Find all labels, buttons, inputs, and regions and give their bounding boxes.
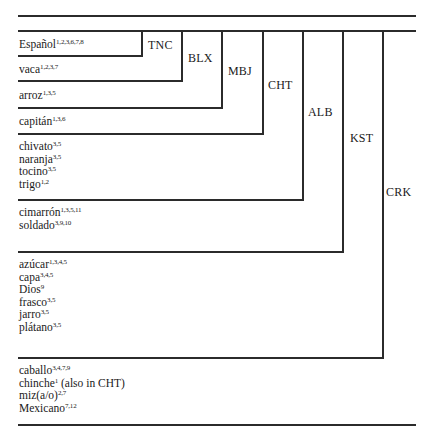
column-border-tnc bbox=[141, 30, 143, 57]
word-group-8: caballo3,4,7,9chinche1 (also in CHT)miz(… bbox=[19, 364, 125, 414]
language-label-kst: KST bbox=[350, 132, 373, 145]
source-references: 1,3,5 bbox=[43, 89, 56, 97]
row-separator-crk bbox=[18, 357, 384, 359]
source-references: 3,4,7,9 bbox=[52, 364, 70, 372]
source-references: 3,4,5 bbox=[40, 271, 53, 279]
loanword: trigo bbox=[19, 178, 41, 190]
loanword-entry: chinche1 (also in CHT) bbox=[19, 377, 125, 390]
loanword-entry: Mexicano7,12 bbox=[19, 402, 125, 415]
source-references: 3,5 bbox=[53, 321, 61, 329]
loanword-entry: chivato3,5 bbox=[19, 140, 61, 153]
source-references: 1,3,6 bbox=[52, 115, 65, 123]
row-separator-kst bbox=[18, 251, 344, 253]
source-references: 3,5 bbox=[47, 296, 55, 304]
word-group-1: Español1,2,3,6,7,8 bbox=[19, 38, 84, 51]
top-rule bbox=[18, 15, 416, 17]
language-label-crk: CRK bbox=[386, 186, 411, 199]
word-group-2: vaca1,2,3,7 bbox=[19, 63, 58, 76]
loanword-entry: vaca1,2,3,7 bbox=[19, 63, 58, 76]
loanword: Dios bbox=[19, 283, 41, 295]
source-references: 3,5 bbox=[48, 165, 56, 173]
loanword: capa bbox=[19, 271, 40, 283]
source-references: 1,3,4,5 bbox=[49, 258, 67, 266]
language-label-alb: ALB bbox=[308, 106, 333, 119]
source-references: 3,5 bbox=[41, 308, 49, 316]
entry-note: (also in CHT) bbox=[58, 377, 125, 389]
source-references: 2,7 bbox=[58, 389, 66, 397]
row-separator-mbj bbox=[18, 107, 223, 109]
loanword: Mexicano bbox=[19, 402, 65, 414]
loanword: capitán bbox=[19, 115, 52, 127]
loanword-entry: arroz1,3,5 bbox=[19, 89, 56, 102]
language-label-cht: CHT bbox=[268, 79, 293, 92]
loanword: miz(a/o) bbox=[19, 389, 58, 401]
column-border-mbj bbox=[221, 30, 223, 109]
loanword: naranja bbox=[19, 153, 53, 165]
word-group-6: cimarrón1,3,5,11soldado3,9,10 bbox=[19, 206, 81, 231]
source-references: 7,12 bbox=[65, 402, 76, 410]
loanword-entry: soldado3,9,10 bbox=[19, 219, 81, 232]
loanword: cimarrón bbox=[19, 206, 61, 218]
word-group-5: chivato3,5naranja3,5tocino3,5trigo1,2 bbox=[19, 140, 61, 190]
loanword: jarro bbox=[19, 308, 41, 320]
source-references: 1,2,3,6,7,8 bbox=[56, 38, 84, 46]
word-group-3: arroz1,3,5 bbox=[19, 89, 56, 102]
row-separator-cht bbox=[18, 133, 264, 135]
loanword-entry: capitán1,3,6 bbox=[19, 115, 65, 128]
loanword-entry: naranja3,5 bbox=[19, 153, 61, 166]
loanword-entry: miz(a/o)2,7 bbox=[19, 389, 125, 402]
column-border-blx bbox=[181, 30, 183, 82]
language-label-blx: BLX bbox=[188, 52, 213, 65]
word-group-7: azúcar1,3,4,5capa3,4,5Dios9frasco3,5jarr… bbox=[19, 258, 67, 333]
loanword-entry: tocino3,5 bbox=[19, 165, 61, 178]
loanword-entry: cimarrón1,3,5,11 bbox=[19, 206, 81, 219]
source-references: 1,2 bbox=[41, 178, 49, 186]
source-references: 3,9,10 bbox=[55, 219, 71, 227]
language-label-tnc: TNC bbox=[148, 39, 173, 52]
column-border-cht bbox=[262, 30, 264, 135]
loanword: chinche bbox=[19, 377, 55, 389]
loanword-entry: frasco3,5 bbox=[19, 296, 67, 309]
column-border-kst bbox=[342, 30, 344, 253]
word-group-4: capitán1,3,6 bbox=[19, 115, 65, 128]
source-references: 1,2,3,7 bbox=[40, 63, 58, 71]
loanword-entry: jarro3,5 bbox=[19, 308, 67, 321]
source-references: 1,3,5,11 bbox=[61, 206, 82, 214]
loanword: frasco bbox=[19, 296, 47, 308]
loanword-entry: capa3,4,5 bbox=[19, 271, 67, 284]
loanword: tocino bbox=[19, 165, 48, 177]
loanword-entry: plátano3,5 bbox=[19, 321, 67, 334]
loanword: chivato bbox=[19, 140, 53, 152]
loanword: arroz bbox=[19, 89, 43, 101]
loanword-entry: trigo1,2 bbox=[19, 178, 61, 191]
loanword-entry: caballo3,4,7,9 bbox=[19, 364, 125, 377]
row-separator-alb bbox=[18, 199, 304, 201]
row-separator-blx bbox=[18, 80, 183, 82]
language-label-mbj: MBJ bbox=[228, 65, 252, 78]
loanword-entry: Dios9 bbox=[19, 283, 67, 296]
source-references: 3,5 bbox=[53, 153, 61, 161]
bottom-rule bbox=[18, 424, 416, 426]
source-references: 3,5 bbox=[53, 140, 61, 148]
loanword-entry: azúcar1,3,4,5 bbox=[19, 258, 67, 271]
header-rule bbox=[18, 30, 416, 32]
source-references: 9 bbox=[41, 283, 44, 291]
loanword: plátano bbox=[19, 321, 53, 333]
loanword: vaca bbox=[19, 63, 40, 75]
loanword: caballo bbox=[19, 364, 52, 376]
column-border-alb bbox=[302, 30, 304, 201]
loanword: Español bbox=[19, 38, 56, 50]
loanword-entry: Español1,2,3,6,7,8 bbox=[19, 38, 84, 51]
row-separator-tnc bbox=[18, 55, 143, 57]
loanword: azúcar bbox=[19, 258, 49, 270]
loanword: soldado bbox=[19, 219, 55, 231]
column-border-crk bbox=[382, 30, 384, 359]
